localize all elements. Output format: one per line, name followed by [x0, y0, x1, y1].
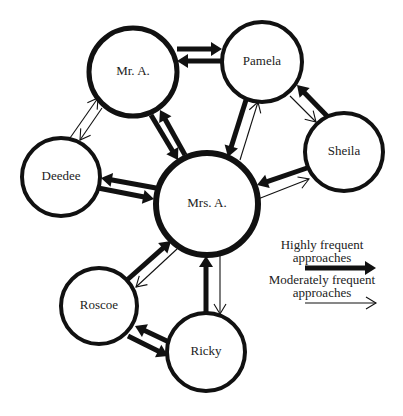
edge-ricky-to-mrs-a-arrow-icon — [199, 256, 213, 313]
edge-mr-a-to-pamela-arrow-icon — [177, 42, 222, 56]
edge-sheila-to-pamela-arrow-icon — [297, 85, 327, 116]
edge-pamela-to-mr-a-arrow-icon — [177, 54, 222, 68]
legend: Highly frequent approaches Moderately fr… — [269, 237, 376, 309]
edge-mr-a-to-deedee-arrow-icon — [80, 108, 102, 140]
edge-sheila-to-mrs-a-arrow-icon — [257, 168, 307, 188]
node-deedee: Deedee — [22, 138, 100, 216]
node-mr-a: Mr. A. — [89, 28, 177, 116]
legend-high-label-line2: approaches — [293, 250, 351, 265]
edge-mrs-a-to-ricky-arrow-icon — [214, 255, 226, 314]
node-label: Sheila — [328, 143, 361, 158]
node-label: Roscoe — [80, 297, 119, 312]
node-label: Pamela — [243, 53, 281, 68]
node-ricky: Ricky — [167, 313, 245, 391]
node-label: Ricky — [190, 343, 222, 358]
edge-deedee-to-mr-a-arrow-icon — [70, 98, 98, 138]
edge-mrs-a-to-deedee-arrow-icon — [101, 173, 156, 188]
node-roscoe: Roscoe — [61, 268, 137, 344]
node-label: Deedee — [42, 168, 81, 183]
node-mrs-a: Mrs. A. — [156, 153, 258, 255]
node-sheila: Sheila — [305, 113, 383, 191]
edge-deedee-to-mrs-a-arrow-icon — [98, 188, 154, 204]
node-pamela: Pamela — [222, 22, 302, 102]
nodes-layer: Mr. A.PamelaSheilaDeedeeMrs. A.RoscoeRic… — [22, 22, 383, 391]
node-label: Mrs. A. — [187, 195, 226, 210]
legend-moderate-label-line2: approaches — [293, 285, 351, 300]
edge-pamela-to-mrs-a-arrow-icon — [225, 100, 246, 157]
approach-network-diagram: Mr. A.PamelaSheilaDeedeeMrs. A.RoscoeRic… — [0, 0, 403, 416]
node-label: Mr. A. — [116, 63, 150, 78]
